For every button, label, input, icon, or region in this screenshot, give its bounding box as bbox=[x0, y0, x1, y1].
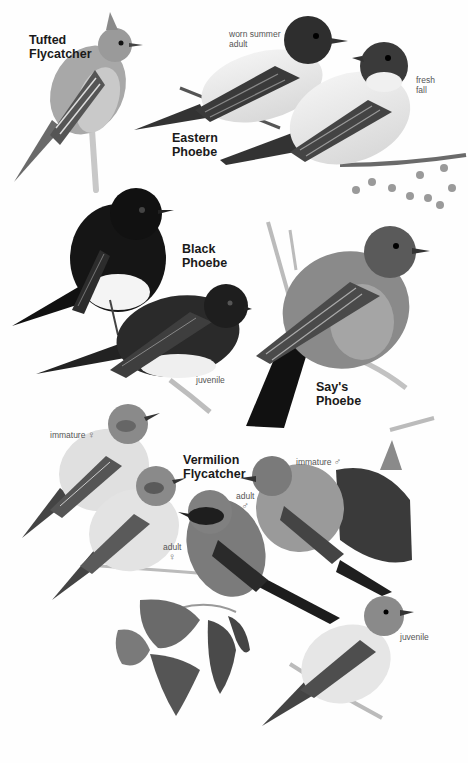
label-adult-female: adult ♀ bbox=[163, 542, 181, 562]
label-text: immature bbox=[296, 457, 331, 467]
species-name-line1: Eastern bbox=[172, 131, 218, 145]
label-vermilion-juvenile: juvenile bbox=[400, 632, 429, 642]
label-adult-male: adult ♂ bbox=[236, 491, 254, 511]
species-name-line2: Flycatcher bbox=[183, 467, 246, 481]
species-name-line1: Black bbox=[182, 242, 227, 256]
species-name-line2: Flycatcher bbox=[29, 47, 92, 61]
species-name-line2: Phoebe bbox=[182, 256, 227, 270]
male-symbol-icon: ♂ bbox=[236, 501, 254, 511]
bird-illustrations bbox=[0, 0, 468, 763]
label-immature-female: immature ♀ bbox=[50, 430, 95, 440]
male-symbol-icon: ♂ bbox=[334, 456, 342, 467]
label-line2: adult bbox=[229, 39, 280, 49]
female-symbol-icon: ♀ bbox=[163, 552, 181, 562]
label-immature-male: immature ♂ bbox=[296, 457, 341, 467]
label-fresh-fall: fresh fall bbox=[416, 75, 435, 95]
species-name-line1: Tufted bbox=[29, 33, 92, 47]
label-worn-summer-adult: worn summer adult bbox=[229, 29, 280, 49]
species-name-line1: Vermilion bbox=[183, 453, 246, 467]
species-eastern-phoebe: Eastern Phoebe bbox=[172, 131, 218, 159]
vermilion-juvenile-illustration bbox=[262, 596, 414, 726]
label-line2: fall bbox=[416, 85, 435, 95]
species-name-line2: Phoebe bbox=[172, 145, 218, 159]
species-black-phoebe: Black Phoebe bbox=[182, 242, 227, 270]
birch-leaves-illustration bbox=[116, 599, 250, 716]
species-name-line1: Say's bbox=[316, 380, 361, 394]
species-says-phoebe: Say's Phoebe bbox=[316, 380, 361, 408]
field-guide-plate: Tufted Flycatcher Eastern Phoebe Black P… bbox=[0, 0, 468, 763]
female-symbol-icon: ♀ bbox=[88, 429, 96, 440]
vermilion-immature-male-illustration bbox=[240, 418, 434, 596]
label-line1: fresh bbox=[416, 75, 435, 85]
label-black-phoebe-juvenile: juvenile bbox=[196, 375, 225, 385]
species-vermilion-flycatcher: Vermilion Flycatcher bbox=[183, 453, 246, 481]
species-tufted-flycatcher: Tufted Flycatcher bbox=[29, 33, 92, 61]
species-name-line2: Phoebe bbox=[316, 394, 361, 408]
label-line1: worn summer bbox=[229, 29, 280, 39]
label-text: immature bbox=[50, 430, 85, 440]
